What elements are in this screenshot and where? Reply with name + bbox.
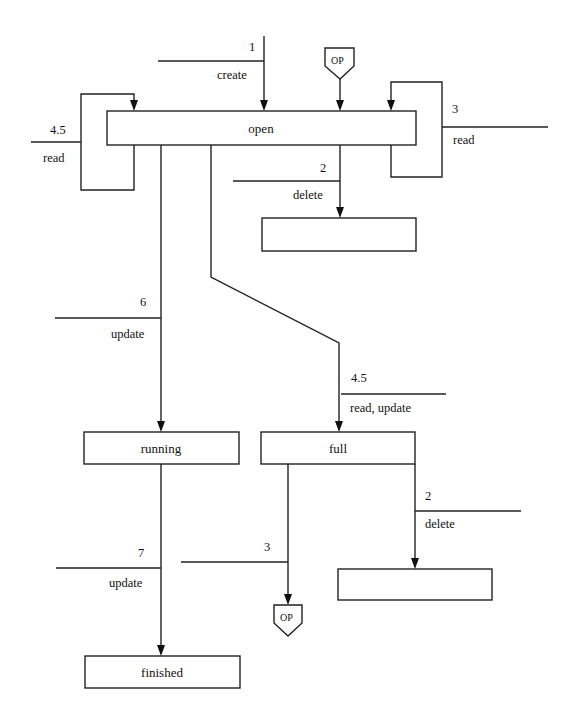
op-connector-bottom: OP bbox=[274, 605, 302, 636]
transition-number: 6 bbox=[140, 295, 146, 309]
state-deleted-1[interactable] bbox=[262, 218, 416, 251]
arrow-head-icon bbox=[157, 421, 165, 432]
transition-number: 4.5 bbox=[351, 371, 367, 385]
transition-full-to-op: 3 bbox=[181, 464, 292, 605]
transition-number: 3 bbox=[452, 102, 458, 116]
state-finished[interactable]: finished bbox=[85, 656, 240, 688]
transition-label: read bbox=[453, 133, 475, 147]
connector-label: OP bbox=[280, 612, 293, 623]
transition-number: 2 bbox=[320, 161, 326, 175]
op-connector-top: OP bbox=[325, 48, 354, 111]
transition-read-update-to-full: 4.5 read, update bbox=[211, 145, 446, 432]
transition-label: read bbox=[43, 151, 65, 165]
transition-delete-from-open: 2 delete bbox=[233, 145, 344, 218]
transition-number: 1 bbox=[249, 40, 255, 54]
transition-label: update bbox=[109, 576, 143, 590]
arrow-head-icon bbox=[260, 100, 268, 111]
transition-label: update bbox=[111, 327, 145, 341]
state-full[interactable]: full bbox=[261, 432, 415, 464]
transition-number: 4.5 bbox=[50, 123, 66, 137]
state-label: open bbox=[248, 121, 274, 136]
arrow-head-icon bbox=[130, 100, 138, 111]
state-running[interactable]: running bbox=[84, 432, 239, 464]
arrow-head-icon bbox=[336, 100, 344, 111]
state-label: full bbox=[329, 441, 347, 456]
state-open[interactable]: open bbox=[107, 111, 416, 145]
transition-update-to-running: 6 update bbox=[55, 145, 165, 432]
transition-number: 7 bbox=[138, 546, 144, 560]
state-deleted-2[interactable] bbox=[338, 569, 492, 600]
transition-delete-from-full: 2 delete bbox=[411, 464, 521, 569]
arrow-head-icon bbox=[387, 100, 395, 111]
arrow-head-icon bbox=[411, 558, 419, 569]
transition-number: 2 bbox=[425, 489, 431, 503]
transition-label: read, update bbox=[350, 401, 412, 415]
transition-label: delete bbox=[293, 188, 323, 202]
state-label: running bbox=[141, 441, 182, 456]
arrow-head-icon bbox=[157, 645, 165, 656]
arrow-head-icon bbox=[284, 594, 292, 605]
connector-label: OP bbox=[331, 55, 344, 66]
transition-number: 3 bbox=[264, 540, 270, 554]
transition-update-to-finished: 7 update bbox=[56, 464, 165, 656]
transition-label: create bbox=[217, 68, 247, 82]
state-diagram: 1 create OP 4.5 read 3 read open 2 delet… bbox=[0, 0, 578, 724]
arrow-head-icon bbox=[335, 421, 343, 432]
transition-label: delete bbox=[425, 517, 455, 531]
arrow-head-icon bbox=[336, 207, 344, 218]
transition-create: 1 create bbox=[158, 36, 268, 111]
state-label: finished bbox=[141, 665, 183, 680]
